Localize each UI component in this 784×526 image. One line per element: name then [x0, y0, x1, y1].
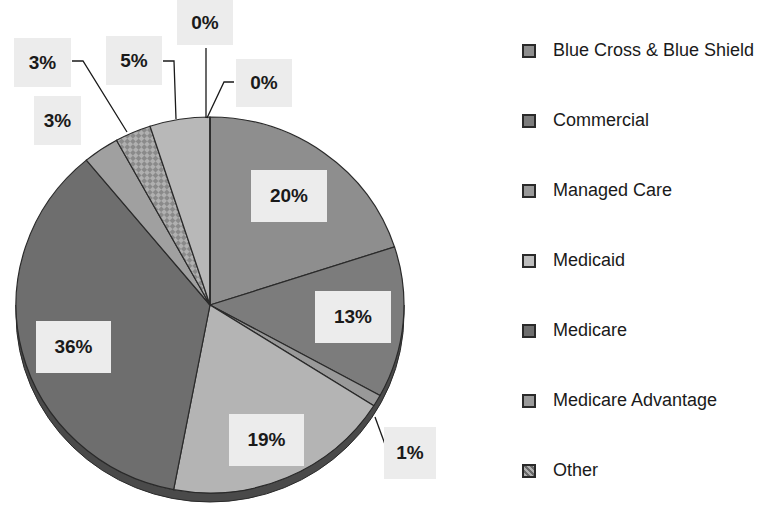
data-label-bcbs: 20% — [251, 170, 327, 222]
data-label-medicaid: 19% — [229, 414, 304, 466]
legend-swatch — [522, 114, 536, 128]
legend-swatch — [522, 324, 536, 338]
legend-swatch — [522, 464, 536, 478]
data-label-medicare: 36% — [36, 321, 111, 373]
data-label-zero-a: 0% — [177, 0, 233, 45]
legend-swatch — [522, 394, 536, 408]
legend-item-medicare: Medicare — [522, 320, 627, 341]
data-label-medicare-advantage: 3% — [34, 96, 81, 145]
legend-item-bcbs: Blue Cross & Blue Shield — [522, 40, 754, 61]
legend-swatch — [522, 184, 536, 198]
leader-line-five — [163, 61, 176, 119]
legend-swatch — [522, 254, 536, 268]
leader-line-zero-b — [207, 82, 234, 118]
data-label-other: 3% — [14, 38, 71, 87]
legend-item-other: Other — [522, 460, 598, 481]
data-label-five: 5% — [106, 36, 162, 85]
data-label-managed-care: 1% — [384, 427, 436, 479]
legend-item-medicare-advantage: Medicare Advantage — [522, 390, 717, 411]
legend-item-medicaid: Medicaid — [522, 250, 625, 271]
legend-swatch — [522, 44, 536, 58]
legend-item-managed-care: Managed Care — [522, 180, 672, 201]
data-label-zero-b: 0% — [236, 59, 292, 107]
data-label-commercial: 13% — [315, 291, 391, 343]
legend-item-commercial: Commercial — [522, 110, 649, 131]
